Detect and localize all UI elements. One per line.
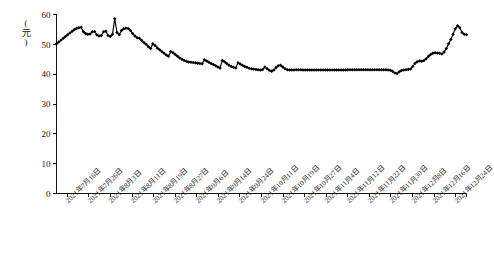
y-tick-label: 50 xyxy=(42,40,52,50)
y-tick-label: 0 xyxy=(46,189,51,199)
series-line xyxy=(57,19,467,74)
y-tick-label: 10 xyxy=(42,159,52,169)
data-series xyxy=(55,17,469,75)
series-marker xyxy=(113,17,117,21)
y-tick-label: 40 xyxy=(42,69,52,79)
y-tick-label: 20 xyxy=(42,129,52,139)
y-axis: 0102030405060 xyxy=(42,10,57,199)
y-tick-label: 60 xyxy=(42,10,52,20)
series-marker xyxy=(451,32,455,36)
y-tick-label: 30 xyxy=(42,99,52,109)
